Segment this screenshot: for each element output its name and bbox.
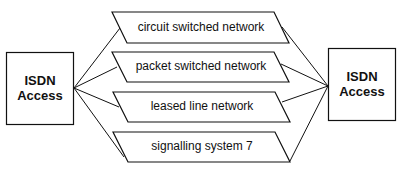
right-node-line2: Access [328,84,396,99]
network-label-ss7: signalling system 7 [121,139,283,153]
network-label-packet: packet switched network [120,59,282,73]
left-node-line1: ISDN [6,73,74,88]
left-isdn-access-label: ISDN Access [6,73,74,103]
right-connectors [281,27,328,161]
right-node-line1: ISDN [328,69,396,84]
network-label-leased: leased line network [121,99,283,113]
left-node-line2: Access [6,88,74,103]
right-isdn-access-label: ISDN Access [328,69,396,99]
network-label-circuit: circuit switched network [120,20,282,34]
